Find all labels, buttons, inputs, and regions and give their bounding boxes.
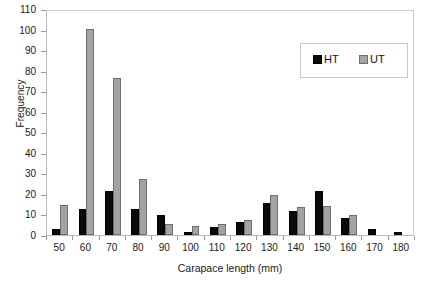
legend-label-ht: HT xyxy=(324,54,339,65)
bar-ut-100 xyxy=(192,226,200,235)
y-tick-label: 30 xyxy=(2,169,36,179)
legend-item-ut: UT xyxy=(359,54,385,65)
chart-legend: HT UT xyxy=(300,43,408,78)
bar-ht-120 xyxy=(236,222,244,235)
x-tick-mark xyxy=(309,236,310,240)
x-tick-mark xyxy=(256,236,257,240)
y-tick-label: 50 xyxy=(2,128,36,138)
x-tick-mark xyxy=(335,236,336,240)
x-tick-mark xyxy=(72,236,73,240)
y-tick-label: 110 xyxy=(2,5,36,15)
x-tick-mark xyxy=(177,236,178,240)
bar-ut-130 xyxy=(270,195,278,235)
legend-item-ht: HT xyxy=(313,54,339,65)
x-tick-mark xyxy=(46,236,47,240)
bar-ut-70 xyxy=(113,78,121,235)
y-tick-label: 20 xyxy=(2,190,36,200)
y-tick-label: 70 xyxy=(2,87,36,97)
y-tick-label: 0 xyxy=(2,231,36,241)
y-tick-label: 80 xyxy=(2,67,36,77)
y-tick-label: 40 xyxy=(2,149,36,159)
legend-swatch-ut-icon xyxy=(359,55,368,64)
x-tick-mark xyxy=(99,236,100,240)
legend-swatch-ht-icon xyxy=(313,55,322,64)
x-tick-mark xyxy=(414,236,415,240)
bar-chart-figure: Frequency Carapace length (mm) 010203040… xyxy=(0,0,431,285)
bar-ut-120 xyxy=(244,220,252,235)
y-tick-label: 90 xyxy=(2,46,36,56)
x-tick-mark xyxy=(283,236,284,240)
x-tick-mark xyxy=(361,236,362,240)
bar-ht-50 xyxy=(52,229,60,235)
bar-ut-50 xyxy=(60,205,68,235)
bar-ut-140 xyxy=(297,207,305,235)
bar-ut-150 xyxy=(323,206,331,235)
bar-ht-90 xyxy=(157,215,165,235)
bar-ut-90 xyxy=(165,224,173,235)
bar-ut-80 xyxy=(139,179,147,236)
bar-ht-140 xyxy=(289,211,297,235)
y-tick-label: 60 xyxy=(2,108,36,118)
bar-ht-60 xyxy=(79,209,87,235)
bar-ht-70 xyxy=(105,191,113,235)
bar-ut-110 xyxy=(218,224,226,235)
x-tick-mark xyxy=(151,236,152,240)
y-tick-label: 100 xyxy=(2,26,36,36)
legend-label-ut: UT xyxy=(370,54,385,65)
bar-ht-80 xyxy=(131,209,139,235)
bar-ut-60 xyxy=(86,29,94,235)
x-tick-mark xyxy=(204,236,205,240)
x-tick-mark xyxy=(388,236,389,240)
bar-ht-180 xyxy=(394,232,402,235)
bar-ht-160 xyxy=(341,218,349,235)
bar-ht-110 xyxy=(210,227,218,235)
bar-ht-100 xyxy=(184,232,192,235)
bar-ht-170 xyxy=(368,229,376,235)
x-tick-label: 180 xyxy=(385,242,417,253)
x-axis-title: Carapace length (mm) xyxy=(46,262,414,274)
bar-ut-160 xyxy=(349,215,357,235)
bar-ht-150 xyxy=(315,191,323,235)
bar-ht-130 xyxy=(263,203,271,235)
y-tick-label: 10 xyxy=(2,210,36,220)
x-tick-mark xyxy=(230,236,231,240)
x-tick-mark xyxy=(125,236,126,240)
